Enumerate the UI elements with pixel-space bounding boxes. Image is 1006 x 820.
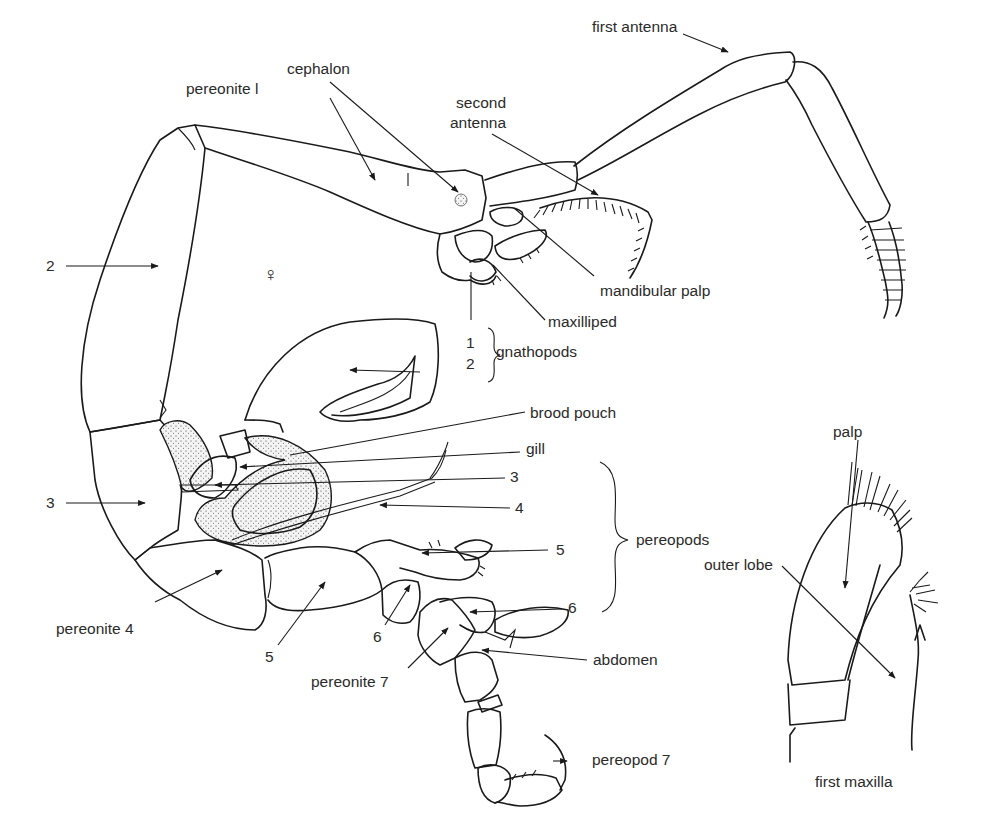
label-gill: gill (526, 440, 545, 459)
label-gnathopods: gnathopods (496, 343, 577, 362)
pereonite-2-drawing (81, 125, 205, 432)
gnathopod-2-drawing (245, 319, 438, 432)
label-gnathopod-2: 2 (466, 355, 475, 374)
label-maxilliped: maxilliped (548, 313, 617, 332)
label-abdomen: abdomen (593, 651, 658, 670)
label-pereopods: pereopods (636, 531, 709, 550)
label-first-antenna: first antenna (592, 18, 677, 37)
label-pereopod-5: 5 (556, 541, 565, 560)
label-pereopod-4: 4 (515, 499, 524, 518)
label-brood-pouch: brood pouch (530, 404, 616, 423)
label-cephalon: cephalon (287, 60, 350, 79)
pereonite-4-5-drawing (135, 540, 382, 630)
label-pereonite-3: 3 (46, 494, 55, 513)
label-pereonite-7: pereonite 7 (311, 673, 389, 692)
label-pereonite-2: 2 (46, 257, 55, 276)
label-pereonite-5: 5 (265, 648, 274, 667)
label-mandibular-palp: mandibular palp (600, 282, 710, 301)
body-anterior-drawing (195, 125, 577, 234)
second-antenna-drawing (490, 198, 652, 278)
label-pereopod-7: pereopod 7 (592, 751, 670, 770)
first-maxilla-drawing (788, 462, 938, 762)
label-pereonite-4: pereonite 4 (56, 620, 134, 639)
label-gnathopod-1: 1 (466, 334, 475, 353)
label-pereopod-6: 6 (568, 599, 577, 618)
caption-first-maxilla: first maxilla (815, 773, 893, 792)
label-pereopod-3: 3 (510, 468, 519, 487)
brood-pouch-drawing (160, 421, 331, 546)
label-pereonite-6: 6 (373, 628, 382, 647)
label-palp: palp (833, 423, 862, 442)
female-symbol: ♀ (263, 262, 278, 286)
pereopod-5-drawing (355, 540, 492, 580)
mouthparts-drawing (438, 230, 547, 285)
label-second-antenna-line2: antenna (422, 114, 506, 133)
pereopod-7-drawing (455, 652, 566, 806)
label-pereonite-1: pereonite l (186, 80, 258, 99)
first-antenna-drawing (574, 52, 906, 318)
label-second-antenna-line1: second (426, 94, 506, 113)
label-outer-lobe: outer lobe (704, 556, 773, 575)
